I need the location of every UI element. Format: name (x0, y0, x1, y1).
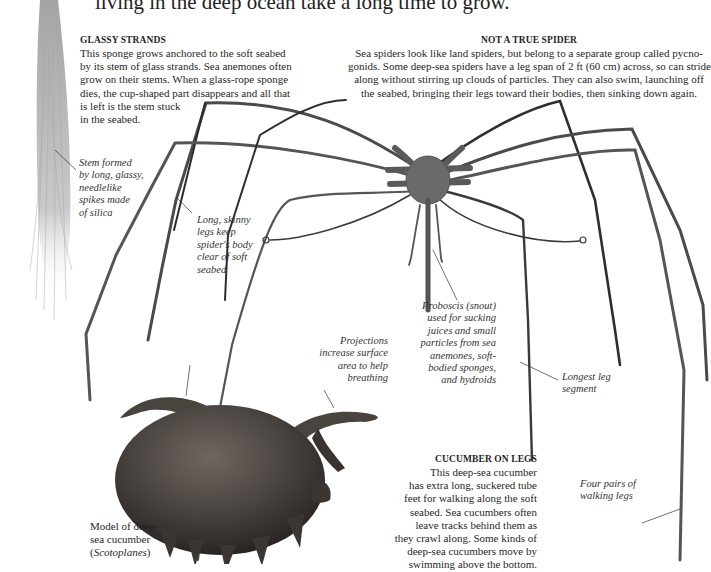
species-name: Scotoplanes (94, 546, 147, 558)
caption-line: clear of soft (197, 251, 253, 263)
text-line: swimming above the bottom. (330, 558, 537, 571)
cucumber-on-legs-heading: CUCUMBER ON LEGS (330, 453, 537, 466)
caption-stem: Stem formed by long, glassy, needlelike … (79, 157, 144, 219)
caption-model: Model of deep- sea cucumber (Scotoplanes… (90, 520, 158, 560)
text-line: the seabed, bringing their legs toward t… (348, 87, 710, 100)
caption-long-legs: Long, skinny legs keep spider's body cle… (197, 214, 253, 276)
caption-line: spider's body (197, 239, 253, 251)
not-a-true-spider-heading: NOT A TRUE SPIDER (348, 34, 710, 47)
sponge-stem-image (30, 0, 76, 320)
text-line: deep-sea cucumbers move by (330, 545, 537, 558)
text-line: grow on their stems. When a glass-rope s… (80, 73, 320, 86)
caption-line: Long, skinny (197, 214, 253, 226)
text-line: along without stirring up clouds of part… (348, 73, 710, 86)
caption-line: and hydroids (396, 374, 496, 386)
text-line: This deep-sea cucumber (330, 466, 537, 479)
caption-line: bodied sponges, (396, 362, 496, 374)
caption-line: needlelike (79, 182, 144, 194)
not-a-true-spider-section: NOT A TRUE SPIDER Sea spiders look like … (348, 34, 710, 100)
caption-projections: Projections increase surface area to hel… (300, 335, 388, 385)
caption-line: (Scotoplanes) (90, 546, 158, 559)
caption-line: Model of deep- (90, 520, 158, 533)
caption-line: sea cucumber (90, 533, 158, 546)
caption-line: seabed (197, 264, 253, 276)
caption-line: Stem formed (79, 157, 144, 169)
caption-line: legs keep (197, 226, 253, 238)
glassy-strands-heading: GLASSY STRANDS (80, 34, 320, 47)
caption-line: of silica (79, 207, 144, 219)
caption-line: increase surface (300, 347, 388, 359)
text-line: in the seabed. (80, 113, 320, 126)
caption-line: Four pairs of (580, 478, 636, 490)
paren: ) (147, 546, 151, 558)
text-line: gonids. Some deep-sea spiders have a leg… (348, 60, 710, 73)
caption-line: breathing (300, 372, 388, 384)
not-a-true-spider-body: Sea spiders look like land spiders, but … (348, 47, 710, 100)
caption-line: segment (562, 383, 611, 395)
caption-four-pairs: Four pairs of walking legs (580, 478, 636, 503)
cucumber-on-legs-body: This deep-sea cucumber has extra long, s… (330, 466, 537, 572)
glassy-strands-body: This sponge grows anchored to the soft s… (80, 47, 320, 126)
caption-line: particles from sea (396, 337, 496, 349)
cucumber-on-legs-section: CUCUMBER ON LEGS This deep-sea cucumber … (330, 453, 537, 572)
caption-line: Proboscis (snout) (396, 300, 496, 312)
caption-line: Longest leg (562, 371, 611, 383)
text-line: is left is the stem stuck (80, 100, 320, 113)
caption-line: used for sucking (396, 312, 496, 324)
text-line: seabed. Sea cucumbers often (330, 506, 537, 519)
caption-line: by long, glassy, (79, 169, 144, 181)
caption-line: juices and small (396, 325, 496, 337)
glassy-strands-section: GLASSY STRANDS This sponge grows anchore… (80, 34, 320, 126)
caption-line: spikes made (79, 194, 144, 206)
text-line: Sea spiders look like land spiders, but … (348, 47, 710, 60)
text-line: feet for walking along the soft (330, 492, 537, 505)
text-line: This sponge grows anchored to the soft s… (80, 47, 320, 60)
caption-longest-leg: Longest leg segment (562, 371, 611, 396)
text-line: leave tracks behind them as (330, 519, 537, 532)
text-line: they crawl along. Some kinds of (330, 532, 537, 545)
caption-line: anemones, soft- (396, 350, 496, 362)
text-line: dies, the cup-shaped part disappears and… (80, 87, 320, 100)
text-line: has extra long, suckered tube (330, 479, 537, 492)
caption-line: walking legs (580, 490, 636, 502)
caption-line: area to help (300, 360, 388, 372)
text-line: by its stem of glass strands. Sea anemon… (80, 60, 320, 73)
caption-proboscis: Proboscis (snout) used for sucking juice… (396, 300, 496, 387)
caption-line: Projections (300, 335, 388, 347)
